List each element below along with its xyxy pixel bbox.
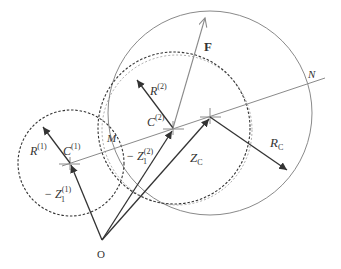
label-zc: ZC xyxy=(190,150,203,167)
label-c2: C(2) xyxy=(147,113,165,129)
label-m: M xyxy=(106,132,117,144)
arrow-force-f xyxy=(173,18,205,128)
cross-c1 xyxy=(59,157,80,170)
label-neg-z1-1: − Z(1)1 xyxy=(44,185,71,204)
label-n: N xyxy=(307,68,316,80)
cross-zc xyxy=(200,108,221,124)
vector-z1-1 xyxy=(71,165,102,240)
label-c1: C(1) xyxy=(63,142,81,158)
vector-z1-2 xyxy=(102,131,172,240)
friction-cone-diagram: F N M O R(1) C(1) − Z(1)1 R(2) C(2) − Z(… xyxy=(0,0,341,269)
label-origin: O xyxy=(97,248,105,260)
label-r1: R(1) xyxy=(29,142,47,158)
label-neg-z1-2: − Z(2)1 xyxy=(126,147,153,166)
label-rc: RC xyxy=(269,135,283,152)
label-r2: R(2) xyxy=(149,82,167,98)
label-force: F xyxy=(204,39,212,54)
